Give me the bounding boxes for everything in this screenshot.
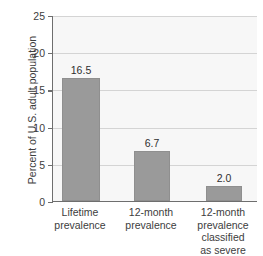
tick-mark (48, 128, 53, 129)
y-axis-tick-label: 10 (33, 122, 45, 134)
bar: 2.0 (206, 186, 242, 201)
y-axis-tick-label: 25 (33, 10, 45, 22)
x-axis-category-label: Lifetime prevalence (40, 206, 120, 231)
tick-mark (48, 90, 53, 91)
bar: 16.5 (62, 78, 100, 201)
plot-area: 051015202516.56.72.0 (52, 16, 257, 202)
bar-value-label: 16.5 (71, 64, 91, 76)
bar-value-label: 2.0 (217, 172, 232, 184)
y-axis-tick-label: 5 (39, 159, 45, 171)
y-axis-tick-label: 15 (33, 84, 45, 96)
tick-mark (48, 16, 53, 17)
bar: 6.7 (134, 151, 170, 201)
tick-mark (48, 165, 53, 166)
gridline (53, 16, 257, 17)
x-axis-category-label: 12-month prevalence classified as severe (183, 206, 263, 256)
tick-mark (48, 53, 53, 54)
bar-value-label: 6.7 (145, 137, 160, 149)
x-axis-category-label: 12-month prevalence (111, 206, 191, 231)
gridline (53, 53, 257, 54)
tick-mark (48, 202, 53, 203)
y-axis-tick-label: 20 (33, 47, 45, 59)
